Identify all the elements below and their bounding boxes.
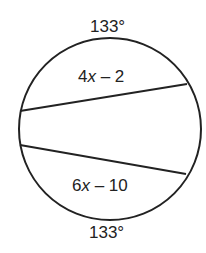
upper-chord-label: 4x – 2	[78, 67, 124, 86]
circle-chords-diagram: 133° 4x – 2 6x – 10 133°	[0, 0, 206, 253]
top-arc-label: 133°	[90, 17, 125, 36]
lower-chord-label: 6x – 10	[72, 176, 128, 195]
upper-chord	[20, 84, 187, 111]
bottom-arc-label: 133°	[89, 223, 124, 242]
lower-chord	[20, 145, 186, 174]
